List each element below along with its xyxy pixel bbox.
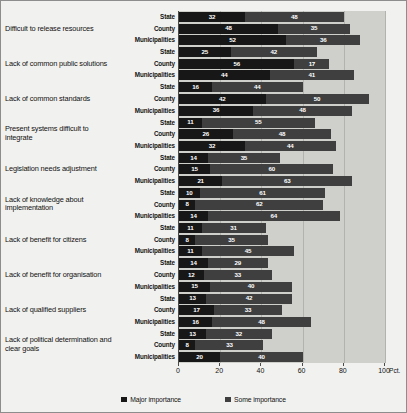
subgroup-label: State — [117, 258, 175, 268]
bar-value-label: 48 — [258, 319, 264, 325]
subgroup-labels: StateCountyMunicipalities — [117, 117, 175, 152]
category-group: Lack of benefit for organisationStateCou… — [1, 257, 178, 292]
subgroup-label: Municipalities — [117, 317, 175, 327]
bar-segment-some: 61 — [200, 188, 326, 198]
bar-value-label: 52 — [229, 37, 235, 43]
bar-value-label: 41 — [309, 72, 315, 78]
subgroup-label: Municipalities — [117, 211, 175, 221]
stacked-bar: 2163 — [179, 176, 385, 186]
category-group: Difficult to release resourcesStateCount… — [1, 11, 178, 46]
stacked-bar: 5236 — [179, 35, 385, 45]
bar-value-label: 16 — [192, 84, 198, 90]
bar-value-label: 25 — [202, 49, 208, 55]
subgroup-label: Municipalities — [117, 141, 175, 151]
bar-value-label: 44 — [254, 84, 260, 90]
chart-legend: Major importance Some importance — [1, 396, 406, 403]
bar-segment-major: 16 — [179, 317, 212, 327]
category-group: Lack of common public solutionsStateCoun… — [1, 46, 178, 81]
bar-value-label: 11 — [187, 248, 193, 254]
bar-value-label: 33 — [226, 342, 232, 348]
bar-value-label: 13 — [189, 331, 195, 337]
bar-value-label: 26 — [203, 131, 209, 137]
bar-segment-some: 33 — [214, 305, 282, 315]
subgroup-label: County — [117, 129, 175, 139]
stacked-bar: 835 — [179, 235, 385, 245]
subgroup-labels: StateCountyMunicipalities — [117, 328, 175, 363]
axis-tick-label: 80 — [339, 367, 347, 374]
legend-label: Some importance — [234, 396, 286, 403]
bar-segment-some: 48 — [245, 12, 344, 22]
stacked-bar: 862 — [179, 200, 385, 210]
bar-segment-some: 50 — [266, 94, 369, 104]
subgroup-label: Municipalities — [117, 176, 175, 186]
bar-value-label: 42 — [219, 96, 225, 102]
bar-segment-major: 16 — [179, 82, 212, 92]
bar-value-label: 14 — [190, 260, 196, 266]
bar-value-label: 8 — [186, 342, 189, 348]
bar-segment-major: 11 — [179, 246, 202, 256]
bar-segment-some: 45 — [202, 246, 295, 256]
subgroup-labels: StateCountyMunicipalities — [117, 152, 175, 187]
stacked-bar: 3648 — [179, 106, 385, 116]
category-label: Lack of qualified suppliers — [5, 306, 115, 315]
stacked-bar: 1155 — [179, 118, 385, 128]
bar-segment-major: 11 — [179, 223, 202, 233]
subgroup-label: State — [117, 118, 175, 128]
stacked-bar: 5617 — [179, 59, 385, 69]
subgroup-label: State — [117, 223, 175, 233]
stacked-bar: 4835 — [179, 24, 385, 34]
stacked-bar: 3244 — [179, 141, 385, 151]
bar-value-label: 48 — [225, 25, 231, 31]
bar-segment-major: 15 — [179, 164, 210, 174]
bar-value-label: 48 — [279, 131, 285, 137]
category-label: Present systems difficult to integrate — [5, 126, 115, 143]
bar-value-label: 35 — [228, 237, 234, 243]
category-group: Lack of common standardsStateCountyMunic… — [1, 81, 178, 116]
stacked-bar: 1429 — [179, 258, 385, 268]
bar-value-label: 48 — [291, 14, 297, 20]
bar-segment-some: 62 — [195, 200, 323, 210]
subgroup-label: County — [117, 24, 175, 34]
category-axis: Difficult to release resourcesStateCount… — [1, 11, 178, 363]
stacked-bar: 1464 — [179, 211, 385, 221]
bar-value-label: 40 — [248, 283, 254, 289]
bar-value-label: 12 — [188, 272, 194, 278]
bar-value-label: 56 — [233, 61, 239, 67]
bar-value-label: 32 — [209, 14, 215, 20]
axis-tick — [384, 363, 385, 366]
category-label: Lack of political determination and clea… — [5, 337, 115, 354]
subgroup-label: Municipalities — [117, 282, 175, 292]
category-group: Lack of qualified suppliersStateCountyMu… — [1, 293, 178, 328]
bar-segment-some: 32 — [206, 329, 272, 339]
axis-unit-label: Pct. — [389, 367, 400, 374]
category-group: Present systems difficult to integrateSt… — [1, 117, 178, 152]
bar-segment-some: 48 — [253, 106, 352, 116]
category-group: Legislation needs adjustmentStateCountyM… — [1, 152, 178, 187]
axis-tick-label: 40 — [256, 367, 264, 374]
axis-tick — [260, 363, 261, 366]
subgroup-label: Municipalities — [117, 70, 175, 80]
bar-value-label: 40 — [258, 354, 264, 360]
stacked-bar: 2040 — [179, 352, 385, 362]
bar-value-label: 15 — [191, 283, 197, 289]
bar-segment-major: 14 — [179, 258, 208, 268]
bar-value-label: 60 — [268, 166, 274, 172]
subgroup-label: County — [117, 164, 175, 174]
category-group: Lack of knowledge about implementationSt… — [1, 187, 178, 222]
axis-tick — [178, 363, 179, 366]
bar-group: 324848355236 — [179, 11, 385, 46]
bar-segment-some: 35 — [278, 24, 350, 34]
bar-segment-some: 60 — [210, 164, 334, 174]
bar-segment-major: 15 — [179, 282, 210, 292]
category-label: Lack of benefit for organisation — [5, 271, 115, 280]
bar-segment-major: 8 — [179, 340, 195, 350]
bar-value-label: 64 — [271, 213, 277, 219]
bar-group: 142912331540 — [179, 257, 385, 292]
stacked-bar: 1332 — [179, 329, 385, 339]
bar-segment-major: 13 — [179, 329, 206, 339]
bar-segment-some: 17 — [294, 59, 329, 69]
bar-segment-major: 42 — [179, 94, 266, 104]
subgroup-label: State — [117, 329, 175, 339]
category-group: Lack of political determination and clea… — [1, 328, 178, 363]
bar-group: 254256174441 — [179, 46, 385, 81]
